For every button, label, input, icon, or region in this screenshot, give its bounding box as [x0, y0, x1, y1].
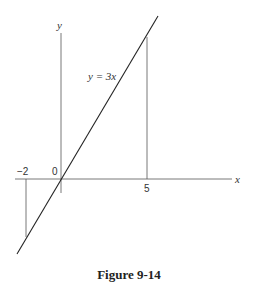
origin-label: 0 [52, 166, 58, 177]
tick-label-neg2: −2 [17, 166, 29, 177]
x-axis-label: x [234, 173, 240, 185]
line-y-equals-3x [17, 16, 158, 254]
figure-caption: Figure 9-14 [97, 267, 161, 282]
equation-label: y = 3x [87, 70, 116, 82]
tick-label-5: 5 [144, 183, 150, 194]
figure-canvas: y x 0 −2 5 y = 3x Figure 9-14 [0, 0, 258, 283]
y-axis-label: y [56, 19, 62, 31]
